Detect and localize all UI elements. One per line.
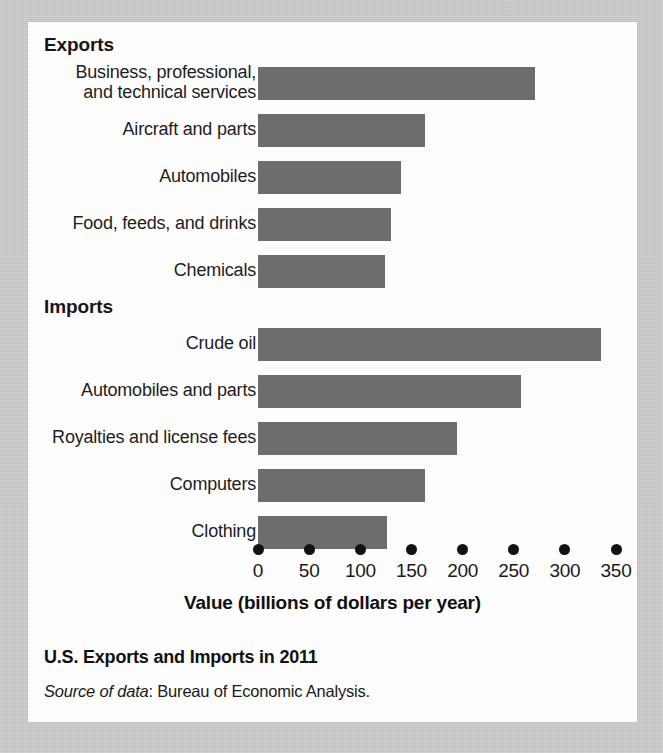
bar-label: Computers <box>41 474 256 494</box>
bar-label: Automobiles and parts <box>41 380 256 400</box>
bar-label: Food, feeds, and drinks <box>41 213 256 233</box>
bar-imports-2 <box>258 422 457 455</box>
bar-label: Chemicals <box>41 260 256 280</box>
bar-label: Royalties and license fees <box>41 427 256 447</box>
bar-exports-1 <box>258 114 425 147</box>
bar-label: Automobiles <box>41 166 256 186</box>
source-text: : Bureau of Economic Analysis. <box>149 682 370 700</box>
figure-card: Exports Imports Business, professional, … <box>28 22 637 722</box>
x-axis-tick-dot <box>355 544 366 555</box>
bar-row: Business, professional, and technical se… <box>28 60 637 107</box>
bar-row: Crude oil <box>28 321 637 368</box>
bar-exports-2 <box>258 161 401 194</box>
x-axis-tick-dot <box>559 544 570 555</box>
bar-label: Business, professional, and technical se… <box>41 62 256 102</box>
bar-row: Food, feeds, and drinks <box>28 201 637 248</box>
bar-label: Crude oil <box>41 333 256 353</box>
bar-row: Computers <box>28 462 637 509</box>
x-axis-tick-dot <box>457 544 468 555</box>
x-axis-tick-dot <box>304 544 315 555</box>
bar-label: Clothing <box>41 521 256 541</box>
bar-exports-0 <box>258 67 535 100</box>
bar-exports-4 <box>258 255 385 288</box>
bar-imports-3 <box>258 469 425 502</box>
bar-row: Chemicals <box>28 248 637 295</box>
section-heading-imports: Imports <box>44 296 113 318</box>
bar-exports-3 <box>258 208 391 241</box>
bar-imports-0 <box>258 328 601 361</box>
bar-imports-1 <box>258 375 521 408</box>
x-axis: 050100150200250300350 Value (billions of… <box>28 544 637 634</box>
bar-row: Automobiles and parts <box>28 368 637 415</box>
x-axis-tick-dot <box>406 544 417 555</box>
source-prefix: Source of data <box>44 682 149 700</box>
bar-row: Royalties and license fees <box>28 415 637 462</box>
x-axis-title: Value (billions of dollars per year) <box>28 592 637 614</box>
x-axis-tick-dot <box>253 544 264 555</box>
bar-label-line1: Business, professional, <box>76 62 257 82</box>
x-axis-tick-dot <box>611 544 622 555</box>
bar-label: Aircraft and parts <box>41 119 256 139</box>
bar-label-line2: and technical services <box>83 82 256 102</box>
bar-row: Automobiles <box>28 154 637 201</box>
x-axis-tick-label: 350 <box>586 560 646 582</box>
figure-title: U.S. Exports and Imports in 2011 <box>44 647 318 668</box>
figure-source: Source of data: Bureau of Economic Analy… <box>44 682 370 701</box>
x-axis-tick-dot <box>508 544 519 555</box>
bar-row: Aircraft and parts <box>28 107 637 154</box>
section-heading-exports: Exports <box>44 34 114 56</box>
